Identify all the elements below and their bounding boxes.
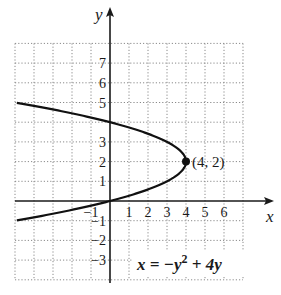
x-axis-label: x [265, 207, 274, 226]
y-tick-label: 7 [99, 56, 106, 71]
vertex-label: (4, 2) [192, 154, 225, 171]
x-tick-label: 3 [164, 205, 171, 220]
vertex-point [182, 158, 190, 166]
chart: x y −1123456−3−2−1123567 (4, 2) x = −y2 … [0, 0, 281, 295]
y-tick-label: −1 [91, 214, 106, 229]
x-tick-label: 2 [145, 205, 152, 220]
x-tick-label: 1 [126, 205, 133, 220]
y-tick-label: 2 [99, 155, 106, 170]
equation-label: x = −y2 + 4y [132, 251, 244, 276]
y-axis-label: y [93, 5, 103, 24]
axes: x y [15, 5, 274, 283]
points: (4, 2) [182, 154, 225, 171]
x-tick-label: 5 [202, 205, 209, 220]
y-tick-label: −3 [91, 253, 106, 268]
y-tick-label: −2 [91, 233, 106, 248]
equation-text: x = −y2 + 4y [136, 252, 222, 274]
x-tick-label: 6 [221, 205, 228, 220]
y-tick-label: 6 [99, 76, 106, 91]
y-tick-label: 3 [99, 135, 106, 150]
x-tick-label: 4 [183, 205, 190, 220]
y-tick-label: 1 [99, 174, 106, 189]
y-tick-label: 5 [99, 96, 106, 111]
